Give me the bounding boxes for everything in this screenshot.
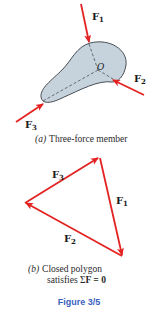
rigid-body (41, 42, 126, 103)
force-label-f3: F3 (25, 119, 37, 132)
three-force-member: O F1 F2 F3 (a)Three-force member (16, 4, 146, 145)
force-polygon: F3 F1 F2 (b)Closed polygon satisfies ΣF … (25, 158, 128, 285)
point-o-label: O (97, 62, 105, 72)
polygon-label-f3: F3 (52, 169, 64, 182)
caption-a: (a)Three-force member (35, 134, 128, 145)
polygon-label-f2: F2 (64, 233, 76, 246)
figure-number-label: Figure 3/5 (0, 297, 158, 307)
polygon-arrow-f2 (26, 203, 122, 256)
force-arrow-f1 (81, 4, 89, 42)
polygon-arrow-f1 (100, 158, 122, 255)
caption-b-line2: satisfies ΣF = 0 (47, 275, 106, 285)
figure-canvas: O F1 F2 F3 (a)Three-force member F3 F1 F… (0, 0, 158, 319)
force-label-f1: F1 (92, 11, 104, 24)
force-label-f2: F2 (134, 73, 146, 86)
caption-b-line1: (b)Closed polygon (28, 264, 102, 275)
polygon-label-f1: F1 (116, 195, 128, 208)
